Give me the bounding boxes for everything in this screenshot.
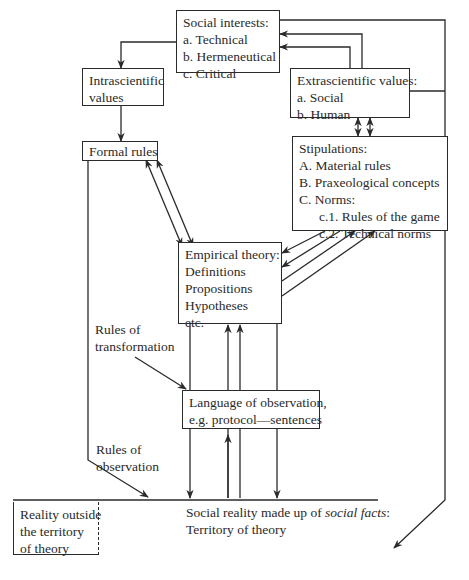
stipulations-item: A. Material rules xyxy=(299,157,441,174)
empirical-theory-item: etc. xyxy=(185,314,275,331)
social-interests-item: c. Critical xyxy=(183,65,273,82)
social-interests-title: Social interests: xyxy=(183,14,273,31)
territory-of-theory-line: Territory of theory xyxy=(186,521,390,538)
reality-outside-line: the territory xyxy=(20,523,92,540)
formal-rules-box: Formal rules xyxy=(82,141,158,161)
extrascientific-values-title: Extrascientific values: xyxy=(297,72,403,89)
social-interests-item: b. Hermeneutical xyxy=(183,48,273,65)
social-interests-item: a. Technical xyxy=(183,31,273,48)
reality-outside-line: of theory xyxy=(20,540,92,557)
stipulations-subitem: c.1. Rules of the game xyxy=(299,208,441,225)
stipulations-item: B. Praxeological concepts xyxy=(299,174,441,191)
rules-of-transformation-line: Rules of xyxy=(95,321,174,338)
rules-of-transformation-label: Rules of transformation xyxy=(95,321,174,355)
stipulations-title: Stipulations: xyxy=(299,140,441,157)
empirical-theory-title: Empirical theory: xyxy=(185,246,275,263)
empirical-theory-item: Propositions xyxy=(185,280,275,297)
intrascientific-values-box: Intrascientific values xyxy=(82,68,164,106)
language-of-observation-line: e.g. protocol—sentences xyxy=(189,411,313,428)
social-reality-suffix: : xyxy=(386,505,390,520)
social-facts-italic: social facts xyxy=(325,505,386,520)
social-interests-box: Social interests: a. Technical b. Hermen… xyxy=(176,10,280,73)
stipulations-box: Stipulations: A. Material rules B. Praxe… xyxy=(292,136,448,231)
empirical-theory-item: Definitions xyxy=(185,263,275,280)
language-of-observation-line: Language of observation, xyxy=(189,394,313,411)
intrascientific-values-line: values xyxy=(89,89,157,106)
language-of-observation-box: Language of observation, e.g. protocol—s… xyxy=(182,390,320,429)
reality-outside-line: Reality outside xyxy=(20,506,92,523)
rules-of-observation-label: Rules of observation xyxy=(96,441,159,475)
extrascientific-values-item: b. Human xyxy=(297,106,403,123)
stipulations-item: C. Norms: xyxy=(299,191,441,208)
formal-rules-title: Formal rules xyxy=(89,143,151,160)
empirical-theory-box: Empirical theory: Definitions Propositio… xyxy=(178,242,282,324)
reality-outside-box: Reality outside the territory of theory xyxy=(13,502,99,555)
extrascientific-values-box: Extrascientific values: a. Social b. Hum… xyxy=(290,68,410,118)
rules-of-observation-line: observation xyxy=(96,458,159,475)
rules-of-transformation-line: transformation xyxy=(95,338,174,355)
stipulations-subitem: c.2. Technical norms xyxy=(299,225,441,242)
social-reality-label: Social reality made up of social facts: … xyxy=(186,504,390,538)
intrascientific-values-line: Intrascientific xyxy=(89,72,157,89)
diagram-canvas: Social interests: a. Technical b. Hermen… xyxy=(0,0,469,580)
extrascientific-values-item: a. Social xyxy=(297,89,403,106)
social-reality-prefix: Social reality made up of xyxy=(186,505,325,520)
rules-of-observation-line: Rules of xyxy=(96,441,159,458)
empirical-theory-item: Hypotheses xyxy=(185,297,275,314)
